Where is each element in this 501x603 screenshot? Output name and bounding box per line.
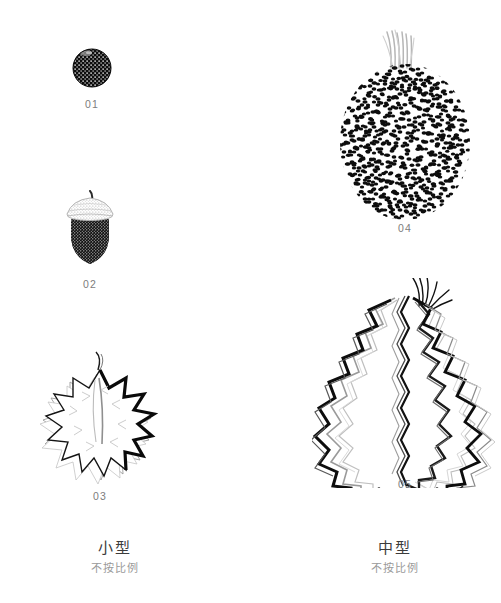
column-caption-medium: 中型 不按比例 — [295, 538, 495, 577]
jackfruit-icon — [325, 24, 485, 229]
figure-label: 01 — [66, 98, 118, 110]
caption-subtitle: 不按比例 — [15, 560, 215, 577]
figure-label: 04 — [325, 222, 485, 234]
round-berry-fruit-icon — [66, 44, 118, 94]
figure-label: 02 — [56, 278, 124, 290]
durian-fruit-icon — [312, 278, 498, 488]
figure-label: 05 — [312, 478, 498, 490]
figure-05: 05 — [312, 278, 498, 508]
figure-01: 01 — [66, 44, 118, 110]
spiky-star-fruit-icon — [30, 350, 170, 490]
acorn-fruit-icon — [56, 190, 124, 274]
figure-04: 04 — [325, 24, 485, 244]
figure-label: 03 — [30, 490, 170, 502]
column-caption-small: 小型 不按比例 — [15, 538, 215, 577]
caption-title: 中型 — [295, 538, 495, 558]
caption-title: 小型 — [15, 538, 215, 558]
figure-03: 03 — [30, 350, 170, 505]
illustration-plate: 01 — [0, 0, 501, 603]
caption-subtitle: 不按比例 — [295, 560, 495, 577]
figure-02: 02 — [56, 190, 124, 290]
